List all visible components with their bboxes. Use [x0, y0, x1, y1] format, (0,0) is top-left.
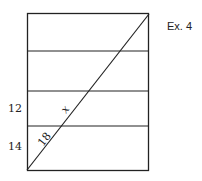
label-14: 14	[8, 140, 22, 153]
label-18: 18	[35, 130, 54, 149]
parallel-lines-diagram: 12 14 x 18 Ex. 4	[0, 0, 202, 181]
label-12: 12	[8, 102, 22, 115]
example-title: Ex. 4	[167, 20, 192, 32]
